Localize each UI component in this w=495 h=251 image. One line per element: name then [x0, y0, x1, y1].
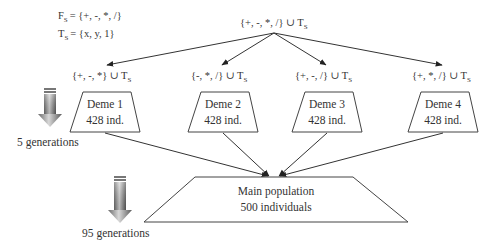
deme-4: Deme 4 428 ind. — [408, 92, 478, 132]
phase-1-down-arrow-icon — [38, 88, 62, 127]
deme-3: Deme 3 428 ind. — [292, 92, 362, 132]
deme-4-primitive-set: {+, *, /} ∪ TS — [412, 70, 471, 84]
deme-2-primitive-set: {-, *, /} ∪ TS — [191, 70, 248, 84]
phase-1-label: 5 generations — [17, 136, 79, 149]
deme-3-size: 428 ind. — [308, 114, 346, 126]
arrow-deme-2-to-main — [223, 133, 269, 176]
phase-2-label: 95 generations — [82, 227, 150, 240]
phase-2-down-arrow-icon — [108, 176, 132, 223]
deme-2-name: Deme 2 — [205, 98, 241, 110]
svg-text:FS= {+, -, *, /}: FS= {+, -, *, /} — [58, 10, 122, 24]
deme-4-size: 428 ind. — [424, 114, 462, 126]
svg-text:TS= {x, y, 1}: TS= {x, y, 1} — [58, 28, 115, 42]
deme-1: Deme 1 428 ind. — [70, 92, 140, 132]
deme-1-size: 428 ind. — [86, 114, 124, 126]
deme-3-name: Deme 3 — [309, 98, 345, 110]
main-population-title: Main population — [238, 185, 315, 198]
arrow-deme-1-to-main — [105, 133, 268, 176]
svg-text:{+, -, *} ∪ TS: {+, -, *} ∪ TS — [72, 70, 132, 84]
main-population-size: 500 individuals — [240, 201, 312, 213]
deme-1-primitive-set: {+, -, *} ∪ TS — [72, 70, 132, 84]
svg-text:{-, *, /} ∪ TS: {-, *, /} ∪ TS — [191, 70, 248, 84]
root-to-deme-arrows — [107, 33, 442, 65]
root-primitive-set: {+, -, *, /} ∪ TS — [240, 17, 308, 31]
terminal-set-definition: TS= {x, y, 1} — [58, 28, 115, 42]
svg-text:{+, *, /} ∪ TS: {+, *, /} ∪ TS — [412, 70, 471, 84]
svg-text:{+, -, *, /} ∪ TS: {+, -, *, /} ∪ TS — [240, 17, 308, 31]
main-population: Main population 500 individuals — [144, 177, 408, 222]
deme-diagram: FS= {+, -, *, /} TS= {x, y, 1} {+, -, *,… — [0, 0, 495, 251]
svg-text:{+, -, /} ∪ TS: {+, -, /} ∪ TS — [295, 70, 352, 84]
deme-to-main-arrows — [105, 133, 443, 176]
deme-2-size: 428 ind. — [204, 114, 242, 126]
function-set-definition: FS= {+, -, *, /} — [58, 10, 122, 24]
arrow-deme-4-to-main — [280, 133, 443, 176]
deme-1-name: Deme 1 — [87, 98, 123, 110]
main-population-shape — [144, 177, 408, 222]
deme-3-primitive-set: {+, -, /} ∪ TS — [295, 70, 352, 84]
deme-4-name: Deme 4 — [425, 98, 461, 110]
deme-2: Deme 2 428 ind. — [188, 92, 258, 132]
